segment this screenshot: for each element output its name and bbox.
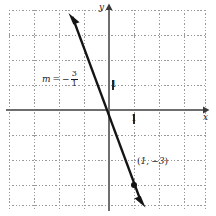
- axis-lines: [6, 8, 203, 211]
- marked-point-dot: [131, 182, 137, 188]
- slope-variable: m: [42, 74, 51, 84]
- x-axis-tick-label-1: 1: [131, 114, 137, 123]
- point-close-paren: ): [164, 156, 168, 166]
- axis-arrowheads: [106, 4, 210, 114]
- line-arrowhead-lower: [134, 196, 145, 208]
- point-comma: ,: [146, 156, 149, 166]
- point-label: (1,−3): [137, 157, 168, 166]
- graph-canvas: [0, 0, 216, 216]
- slope-denominator: 1: [71, 80, 78, 88]
- y-axis-arrowhead: [106, 4, 113, 11]
- slope-equals-sign: =: [53, 74, 61, 84]
- coordinate-plane-figure: y x 1 1 m=−31 (1,−3): [0, 0, 216, 216]
- slope-numerator: 3: [71, 70, 78, 78]
- y-axis-label: y: [99, 3, 104, 12]
- point-y-value: −3: [151, 156, 164, 166]
- y-axis-tick-label-1: 1: [111, 80, 117, 89]
- slope-negative-sign: −: [62, 74, 70, 84]
- slope-annotation: m=−31: [42, 70, 79, 88]
- slope-fraction: 31: [71, 70, 78, 88]
- line-arrowhead-upper: [69, 13, 80, 25]
- x-axis-label: x: [203, 113, 208, 122]
